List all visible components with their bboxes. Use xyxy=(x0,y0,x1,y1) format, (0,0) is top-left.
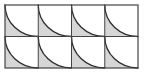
quarter-circle-tile-grid xyxy=(0,0,144,73)
figure-container xyxy=(0,0,144,73)
